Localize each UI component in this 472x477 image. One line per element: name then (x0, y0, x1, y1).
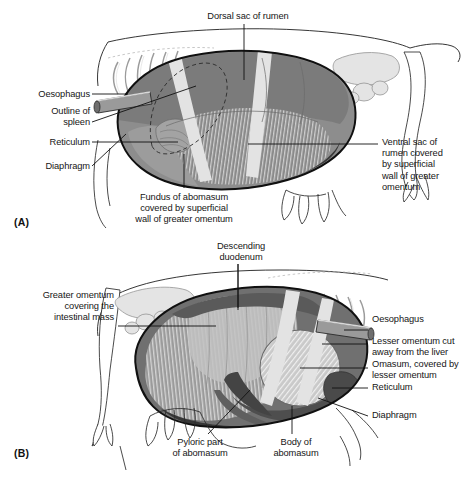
panel-a-tag: (A) (14, 216, 29, 228)
panel-b-tag: (B) (14, 447, 29, 459)
label-oesophagus: Oesophagus (12, 89, 90, 100)
anatomy-figure: (A) Dorsal sac of rumen Oesophagus Outli… (0, 0, 472, 477)
label-reticulum: Reticulum (12, 137, 90, 148)
dorsal-dotted-contour (268, 272, 372, 278)
label-ventral-sac-of-rumen: Ventral sac of rumen covered by superfic… (382, 137, 470, 193)
rumen-mass (100, 30, 380, 210)
label-outline-of-spleen: Outline of spleen (12, 106, 90, 128)
label-diaphragm: Diaphragm (12, 161, 90, 172)
label-reticulum-b: Reticulum (372, 382, 468, 393)
label-descending-duodenum: Descending duodenum (186, 241, 296, 263)
label-lesser-omentum: Lesser omentum cut away from the liver (372, 336, 472, 358)
label-diaphragm-b: Diaphragm (372, 410, 468, 421)
label-omasum: Omasum, covered by lesser omentum (372, 359, 472, 381)
label-fundus-of-abomasum: Fundus of abomasum covered by superficia… (104, 192, 264, 226)
panel-a: (A) Dorsal sac of rumen Oesophagus Outli… (0, 0, 472, 240)
label-pyloric-part-of-abomasum: Pyloric part of abomasum (160, 437, 240, 459)
label-oesophagus-b: Oesophagus (372, 314, 468, 325)
label-body-of-abomasum: Body of abomasum (258, 437, 334, 459)
leader-diaphragm (92, 134, 126, 166)
label-greater-omentum: Greater omentum covering the intestinal … (10, 290, 114, 324)
label-dorsal-sac-of-rumen: Dorsal sac of rumen (188, 11, 308, 22)
